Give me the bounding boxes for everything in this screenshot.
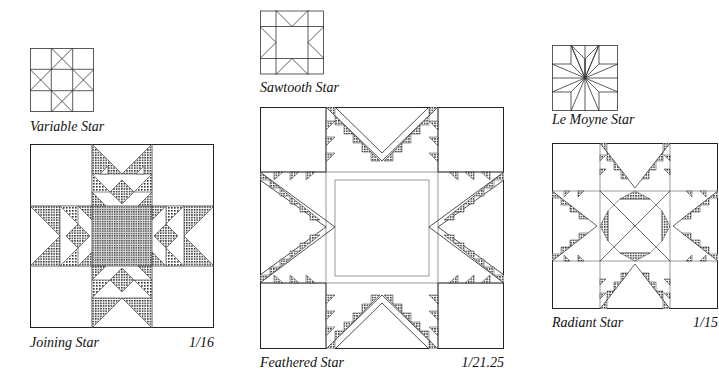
- joining-star-block: [30, 144, 214, 328]
- le-moyne-star-icon: [552, 45, 618, 111]
- feathered-star-scale: 1/21.25: [420, 355, 504, 371]
- feathered-star-caption: Feathered Star: [260, 355, 344, 371]
- feathered-star-block: [260, 107, 504, 349]
- sawtooth-star-icon: [260, 10, 324, 75]
- joining-star-caption: Joining Star: [30, 335, 99, 351]
- variable-star-thumbnail: [30, 48, 94, 112]
- sawtooth-star-thumbnail: [260, 10, 324, 75]
- feathered-star-diagram: [260, 107, 504, 349]
- le-moyne-star-caption: Le Moyne Star: [552, 112, 634, 128]
- le-moyne-star-thumbnail: [552, 45, 618, 111]
- radiant-star-diagram: [552, 143, 718, 309]
- sawtooth-star-caption: Sawtooth Star: [260, 80, 339, 96]
- joining-star-scale: 1/16: [150, 335, 214, 351]
- joining-star-diagram: [30, 144, 214, 328]
- radiant-star-scale: 1/15: [660, 315, 718, 331]
- radiant-star-caption: Radiant Star: [552, 315, 623, 331]
- variable-star-icon: [30, 48, 94, 112]
- radiant-star-block: [552, 143, 718, 309]
- variable-star-caption: Variable Star: [30, 119, 104, 135]
